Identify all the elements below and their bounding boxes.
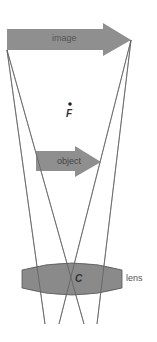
lens-label: lens <box>126 273 143 283</box>
lens-center-label: C <box>75 273 82 284</box>
ray-diagram: image object F C lens <box>0 0 157 342</box>
focal-point-dot <box>68 102 72 106</box>
object-label: object <box>57 156 81 166</box>
diagram-canvas <box>0 0 157 342</box>
image-label: image <box>52 33 77 43</box>
focal-point-label: F <box>66 108 72 119</box>
